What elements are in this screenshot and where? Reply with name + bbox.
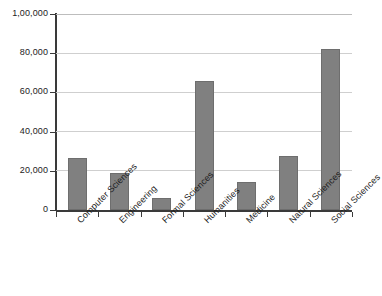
x-axis-tick-label: Humanities [202,185,242,225]
x-axis-tick-label: Medicine [244,192,277,225]
x-axis-tick-label: Engineering [117,183,159,225]
